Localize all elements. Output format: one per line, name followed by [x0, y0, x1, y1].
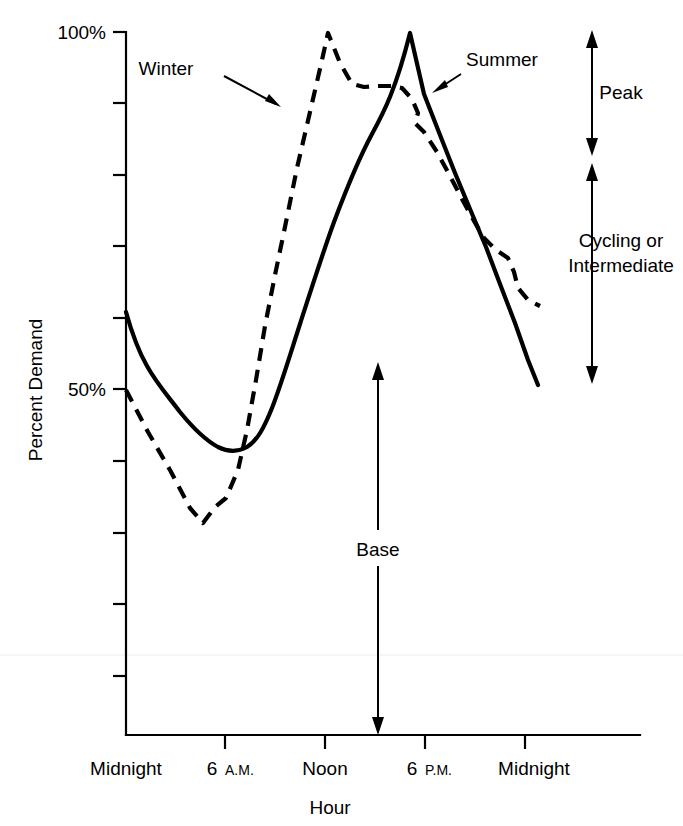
y-axis-title: Percent Demand	[25, 319, 46, 462]
x-tick-label-6pm-suffix: P.M.	[425, 762, 452, 778]
electric-demand-load-curve-figure: Winter Summer Peak Cycling or Intermedia…	[0, 0, 683, 826]
cycling-arrowhead-down-icon	[586, 366, 598, 384]
x-axis-title: Hour	[309, 797, 351, 818]
x-tick-label-6pm: 6 P.M.	[407, 758, 452, 779]
cycling-label-line1: Cycling or	[579, 230, 664, 251]
chart-canvas: Winter Summer Peak Cycling or Intermedia…	[0, 0, 683, 826]
x-axis-ticks	[225, 735, 525, 749]
peak-arrowhead-up-icon	[586, 30, 598, 48]
x-tick-label-6am-number: 6	[207, 758, 218, 779]
cycling-arrowhead-up-icon	[586, 163, 598, 181]
cycling-label-line2: Intermediate	[568, 255, 674, 276]
summer-label: Summer	[466, 49, 538, 70]
x-tick-label-6am-suffix: A.M.	[225, 762, 254, 778]
series-summer-line	[126, 33, 538, 451]
peak-label: Peak	[599, 82, 643, 103]
x-tick-label-6pm-number: 6	[407, 758, 418, 779]
y-tick-label-100: 100%	[57, 22, 106, 43]
peak-band-annotation: Peak	[586, 30, 643, 156]
summer-arrowhead-icon	[432, 80, 448, 93]
winter-label: Winter	[139, 58, 195, 79]
winter-arrowhead-icon	[265, 94, 281, 107]
peak-arrowhead-down-icon	[586, 138, 598, 156]
base-arrowhead-up-icon	[372, 362, 384, 380]
winter-callout: Winter	[139, 58, 281, 107]
axis-group	[113, 32, 640, 749]
x-tick-label-midnight-right: Midnight	[498, 758, 571, 779]
y-axis-ticks	[113, 32, 126, 676]
x-tick-label-noon: Noon	[302, 758, 347, 779]
cycling-band-annotation: Cycling or Intermediate	[568, 163, 674, 384]
x-tick-label-midnight-left: Midnight	[90, 758, 163, 779]
base-arrowhead-down-icon	[372, 717, 384, 735]
series-winter-line	[126, 33, 540, 523]
y-tick-label-50: 50%	[68, 379, 106, 400]
base-band-annotation: Base	[356, 362, 399, 735]
summer-callout: Summer	[432, 49, 539, 93]
x-tick-label-6am: 6 A.M.	[207, 758, 254, 779]
base-label: Base	[356, 539, 399, 560]
